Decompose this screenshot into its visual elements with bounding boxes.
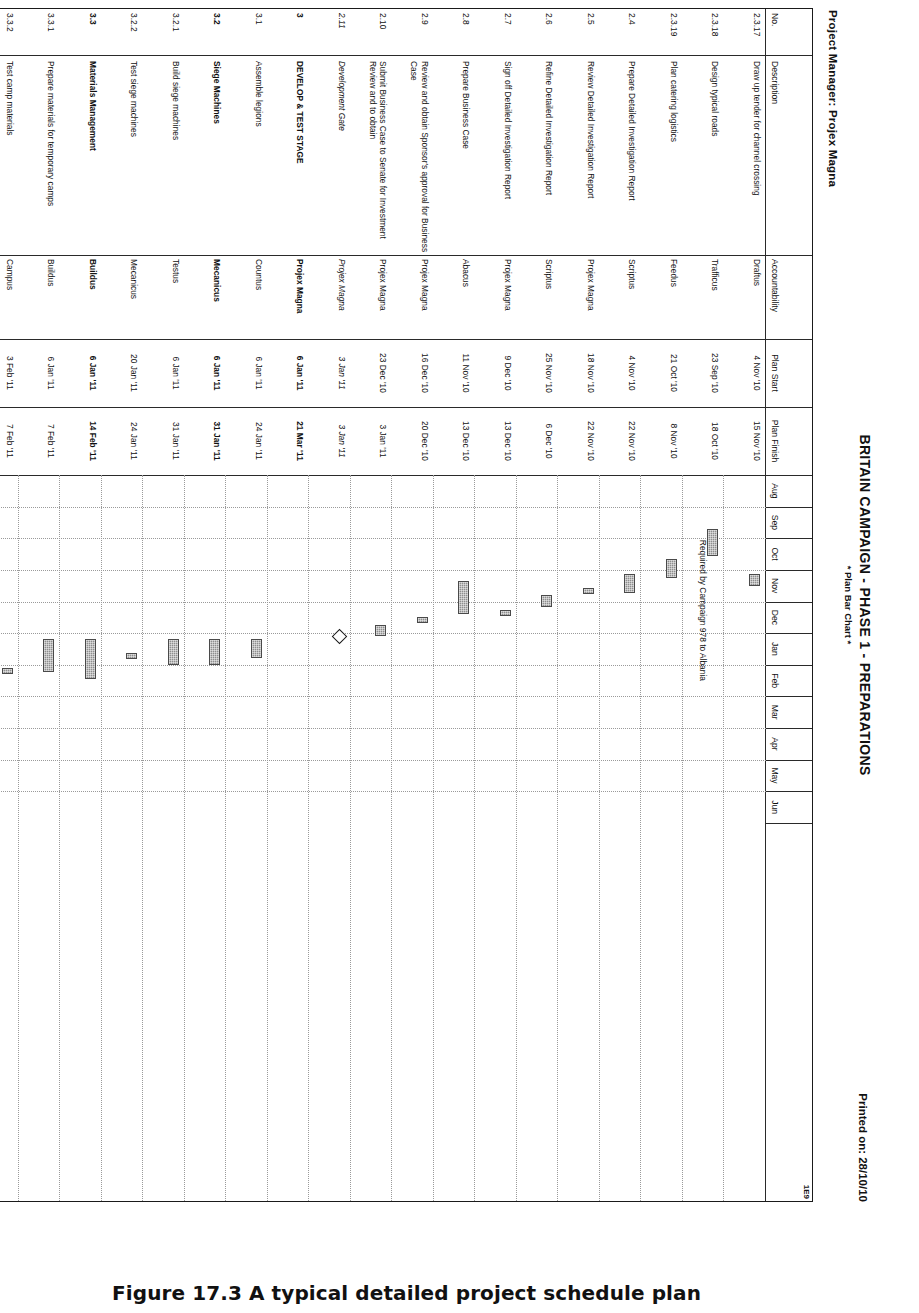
gantt-bar[interactable] bbox=[666, 559, 677, 578]
gridline-may bbox=[0, 760, 766, 761]
column-header-no: No. bbox=[770, 13, 780, 26]
gridline-nov bbox=[0, 570, 766, 571]
cell-no: 3.3.1 bbox=[46, 13, 57, 55]
cell-plan-finish: 18 Oct '10 bbox=[710, 409, 721, 473]
cell-plan-start: 21 Oct '10 bbox=[668, 341, 679, 405]
gantt-bar[interactable] bbox=[500, 610, 511, 616]
cell-accountability: Buildus bbox=[46, 259, 57, 339]
plot-row-separator bbox=[391, 475, 392, 1201]
milestone-diamond-icon[interactable] bbox=[331, 628, 347, 644]
gridline-sep bbox=[0, 507, 766, 508]
plot-row-separator bbox=[557, 475, 558, 1201]
gantt-bar[interactable] bbox=[85, 639, 96, 679]
plot-row-separator bbox=[640, 475, 641, 1201]
gantt-bar[interactable] bbox=[417, 617, 428, 623]
cell-accountability: Projex Magna bbox=[336, 259, 347, 339]
cell-description: Siege Machines bbox=[212, 61, 223, 253]
month-header-oct: Oct bbox=[766, 538, 812, 571]
gantt-bar[interactable] bbox=[583, 588, 594, 594]
gridline-dec bbox=[0, 602, 766, 603]
plot-row-separator bbox=[433, 475, 434, 1201]
month-header-dec: Dec bbox=[766, 602, 812, 635]
gantt-bar[interactable] bbox=[749, 574, 760, 586]
timeline-month-header: 1E9 AugSepOctNovDecJanFebMarAprMayJun bbox=[766, 475, 812, 1201]
cell-plan-finish: 7 Feb '11 bbox=[4, 409, 15, 473]
gantt-bar[interactable] bbox=[375, 625, 386, 636]
page-body: BRITAIN CAMPAIGN - PHASE 1 - PREPARATION… bbox=[45, 0, 875, 1210]
cell-description: DEVELOP & TEST STAGE bbox=[295, 61, 306, 253]
gantt-plot-area: Required by Campaign 978 to Albania bbox=[0, 475, 766, 1201]
cell-no: 2.4 bbox=[627, 13, 638, 55]
cell-plan-start: 6 Jan '11 bbox=[295, 341, 306, 405]
month-header-label: Feb bbox=[770, 665, 780, 697]
cell-plan-start: 9 Dec '10 bbox=[502, 341, 513, 405]
cell-plan-start: 23 Sep '10 bbox=[710, 341, 721, 405]
gantt-bar[interactable] bbox=[168, 639, 179, 665]
month-header-label: Nov bbox=[770, 570, 780, 602]
cell-description: Review and obtain Sponsor's approval for… bbox=[409, 61, 430, 253]
gridline-feb bbox=[0, 665, 766, 666]
cell-plan-finish: 8 Nov '10 bbox=[668, 409, 679, 473]
gantt-bar[interactable] bbox=[126, 653, 137, 659]
page-header: BRITAIN CAMPAIGN - PHASE 1 - PREPARATION… bbox=[813, 0, 875, 1210]
plot-row-separator bbox=[225, 475, 226, 1201]
cell-plan-start: 6 Jan '11 bbox=[87, 341, 98, 405]
cell-plan-start: 25 Nov '10 bbox=[544, 341, 555, 405]
cell-no: 3.2.1 bbox=[170, 13, 181, 55]
gantt-bar[interactable] bbox=[624, 574, 635, 593]
month-header-label: Jun bbox=[770, 791, 780, 823]
month-header-label: May bbox=[770, 760, 780, 792]
gantt-bar[interactable] bbox=[2, 668, 13, 674]
cell-no: 3.3 bbox=[87, 13, 98, 55]
month-header-feb: Feb bbox=[766, 665, 812, 698]
cell-plan-start: 3 Jan '11 bbox=[336, 341, 347, 405]
plot-row-separator bbox=[18, 475, 19, 1201]
cell-plan-finish: 20 Dec '10 bbox=[419, 409, 430, 473]
cell-description: Plan catering logistics bbox=[668, 61, 679, 253]
cell-accountability: Projex Magna bbox=[295, 259, 306, 339]
cell-plan-finish: 7 Feb '11 bbox=[46, 409, 57, 473]
gridline-aug bbox=[0, 475, 766, 476]
cell-plan-start: 20 Jan '11 bbox=[129, 341, 140, 405]
month-header-label: Mar bbox=[770, 696, 780, 728]
scanned-page-sheet: BRITAIN CAMPAIGN - PHASE 1 - PREPARATION… bbox=[45, 0, 875, 1210]
cell-accountability: Countus bbox=[253, 259, 264, 339]
gantt-bar[interactable] bbox=[209, 639, 220, 665]
plot-row-separator bbox=[101, 475, 102, 1201]
cell-accountability: Projex Magna bbox=[502, 259, 513, 339]
cell-plan-start: 18 Nov '10 bbox=[585, 341, 596, 405]
cell-description: Prepare Detailed Investigation Report bbox=[627, 61, 638, 253]
cell-accountability: Mecanicus bbox=[212, 259, 223, 339]
gantt-bar[interactable] bbox=[43, 639, 54, 672]
cell-plan-finish: 3 Jan '11 bbox=[378, 409, 389, 473]
cell-description: Materials Management bbox=[87, 61, 98, 253]
cell-description: Build siege machines bbox=[170, 61, 181, 253]
cell-plan-finish: 22 Nov '10 bbox=[585, 409, 596, 473]
cell-plan-start: 6 Jan '11 bbox=[212, 341, 223, 405]
cell-accountability: Trafficus bbox=[710, 259, 721, 339]
gantt-bar[interactable] bbox=[251, 639, 262, 658]
cell-plan-finish: 14 Feb '11 bbox=[87, 409, 98, 473]
cell-plan-start: 16 Dec '10 bbox=[419, 341, 430, 405]
cell-accountability: Projex Magna bbox=[585, 259, 596, 339]
cell-description: Refine Detailed Investigation Report bbox=[544, 61, 555, 253]
plot-row-separator bbox=[350, 475, 351, 1201]
cell-accountability: Scriptus bbox=[627, 259, 638, 339]
column-header-description: Description bbox=[770, 61, 780, 104]
plot-row-separator bbox=[308, 475, 309, 1201]
cell-no: 2.9 bbox=[419, 13, 430, 55]
gantt-bar[interactable] bbox=[458, 581, 469, 615]
cell-plan-finish: 15 Nov '10 bbox=[751, 409, 762, 473]
gantt-bar[interactable] bbox=[707, 529, 718, 556]
plot-row-separator bbox=[723, 475, 724, 1201]
cell-description: Test siege machines bbox=[129, 61, 140, 253]
cell-plan-start: 6 Jan '11 bbox=[170, 341, 181, 405]
plot-row-separator bbox=[682, 475, 683, 1201]
gantt-bar[interactable] bbox=[541, 595, 552, 607]
cell-accountability: Campus bbox=[4, 259, 15, 339]
plot-row-separator bbox=[267, 475, 268, 1201]
column-header-plan-finish: Plan Finish bbox=[770, 409, 780, 473]
cell-plan-finish: 24 Jan '11 bbox=[253, 409, 264, 473]
cell-no: 3.1 bbox=[253, 13, 264, 55]
month-header-mar: Mar bbox=[766, 696, 812, 729]
